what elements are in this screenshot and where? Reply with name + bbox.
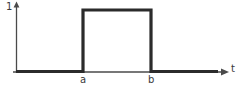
- rectangular-pulse-figure: 1 t a b: [0, 0, 243, 95]
- x-tick-label-a: a: [80, 75, 86, 85]
- x-tick-label-b: b: [148, 75, 154, 85]
- y-axis-arrowhead: [14, 2, 20, 8]
- plot-canvas: [0, 0, 243, 95]
- pulse-signal-trace: [16, 10, 218, 72]
- x-axis-variable-label: t: [231, 64, 235, 74]
- x-axis-arrowhead: [221, 69, 229, 76]
- y-axis-amplitude-label: 1: [6, 2, 12, 12]
